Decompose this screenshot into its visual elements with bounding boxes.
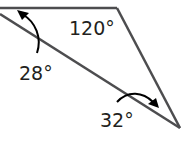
angle-label-120: 120° <box>69 19 115 38</box>
angle-label-28: 28° <box>19 64 53 83</box>
angle-label-32: 32° <box>100 111 134 130</box>
